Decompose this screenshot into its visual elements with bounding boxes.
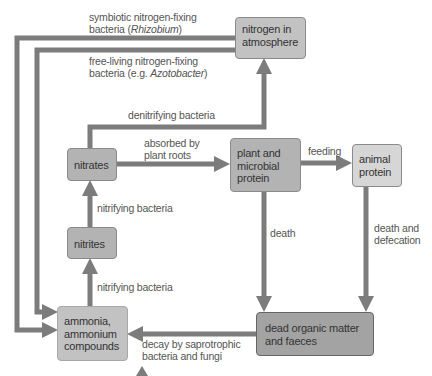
- label-absorbed: absorbed by plant roots: [144, 137, 200, 161]
- node-nitrogen-atmosphere-line2: atmosphere: [242, 36, 299, 49]
- label-free-living-line1: free-living nitrogen-fixing: [89, 55, 207, 67]
- label-decay-line2: bacteria and fungi: [142, 350, 241, 362]
- node-animal-protein-line1: animal: [359, 153, 395, 166]
- label-symbiotic: symbiotic nitrogen-fixing bacteria (Rhiz…: [89, 11, 197, 35]
- label-feeding: feeding: [308, 145, 341, 157]
- node-ammonia-line3: compounds: [64, 340, 121, 353]
- node-plant-protein-line3: protein: [237, 172, 294, 185]
- label-decay: decay by saprotrophic bacteria and fungi: [142, 338, 241, 362]
- node-animal-protein-line2: protein: [359, 166, 395, 179]
- label-nitrifying-upper: nitrifying bacteria: [97, 202, 173, 214]
- arrow-bottom-partial: [136, 366, 148, 376]
- node-nitrites-label: nitrites: [74, 238, 110, 251]
- label-absorbed-line1: absorbed by: [144, 137, 200, 149]
- label-nitrifying-lower: nitrifying bacteria: [97, 281, 173, 293]
- node-dead-matter: dead organic matter and faeces: [256, 312, 374, 356]
- node-ammonia-line2: ammonium: [64, 328, 121, 341]
- label-symbiotic-line2: bacteria (Rhizobium): [89, 23, 197, 35]
- label-denitrifying: denitrifying bacteria: [128, 109, 215, 121]
- arrow-free-living: [37, 50, 235, 312]
- node-nitrogen-atmosphere-line1: nitrogen in: [242, 23, 299, 36]
- label-death-defecation: death and defecation: [374, 222, 420, 246]
- label-free-living: free-living nitrogen-fixing bacteria (e.…: [89, 55, 207, 79]
- label-absorbed-line2: plant roots: [144, 149, 200, 161]
- node-plant-protein-line1: plant and: [237, 147, 294, 160]
- node-nitrates: nitrates: [67, 148, 117, 181]
- node-dead-matter-line1: dead organic matter: [265, 322, 365, 335]
- node-plant-protein: plant and microbial protein: [230, 138, 301, 192]
- node-plant-protein-line2: microbial: [237, 160, 294, 173]
- node-dead-matter-line2: and faeces: [265, 335, 365, 348]
- label-free-living-line2: bacteria (e.g. Azotobacter): [89, 67, 207, 79]
- node-nitrites: nitrites: [67, 227, 117, 259]
- node-ammonia-line1: ammonia,: [64, 315, 121, 328]
- node-nitrates-label: nitrates: [74, 159, 110, 172]
- node-nitrogen-atmosphere: nitrogen in atmosphere: [235, 17, 306, 59]
- node-animal-protein: animal protein: [352, 144, 402, 187]
- node-ammonia: ammonia, ammonium compounds: [57, 306, 128, 361]
- label-decay-line1: decay by saprotrophic: [142, 338, 241, 350]
- label-death-defecation-line2: defecation: [374, 234, 420, 246]
- label-symbiotic-line1: symbiotic nitrogen-fixing: [89, 11, 197, 23]
- label-death: death: [270, 227, 295, 239]
- label-death-defecation-line1: death and: [374, 222, 420, 234]
